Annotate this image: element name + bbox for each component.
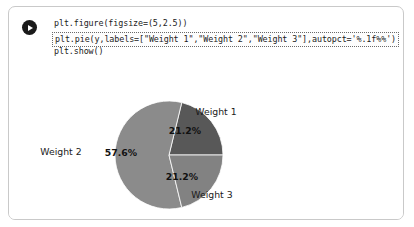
notebook-cell: plt.figure(figsize=(5,2.5)) plt.pie(y,la… (8, 6, 404, 220)
play-icon (28, 25, 33, 31)
code-line-1[interactable]: plt.figure(figsize=(5,2.5)) (54, 18, 187, 29)
code-line-2-selected[interactable]: plt.pie(y,labels=["Weight 1","Weight 2",… (52, 32, 399, 47)
pie-slice-percentage: 21.2% (166, 171, 199, 182)
code-editor-area[interactable]: plt.figure(figsize=(5,2.5)) plt.pie(y,la… (9, 7, 403, 79)
pie-slice-label: Weight 3 (191, 189, 232, 200)
run-cell-button[interactable] (22, 20, 37, 35)
pie-slice-label: Weight 2 (40, 146, 81, 157)
pie-slice-label: Weight 1 (195, 106, 236, 117)
figure-output: Weight 1Weight 2Weight 321.2%57.6%21.2% (9, 79, 403, 220)
code-line-3[interactable]: plt.show() (54, 46, 103, 57)
pie-chart: Weight 1Weight 2Weight 321.2%57.6%21.2% (9, 79, 404, 220)
pie-slice-percentage: 57.6% (105, 147, 138, 158)
pie-slice-percentage: 21.2% (169, 125, 202, 136)
